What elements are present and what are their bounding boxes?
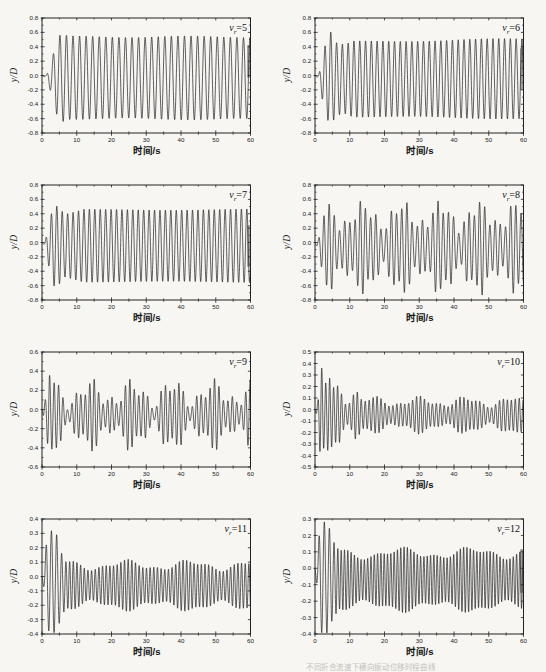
svg-text:-0.2: -0.2: [301, 429, 312, 436]
series-label: vr=12: [497, 523, 520, 537]
x-axis-label: 时间/s: [42, 310, 251, 324]
subplot-vr8: -0.8-0.6-0.4-0.20.00.20.40.60.8010203040…: [273, 167, 546, 334]
svg-text:0.4: 0.4: [303, 43, 312, 50]
svg-text:0.3: 0.3: [30, 529, 39, 536]
svg-text:0.1: 0.1: [303, 548, 312, 555]
svg-text:-0.4: -0.4: [28, 630, 39, 637]
svg-text:0.6: 0.6: [30, 348, 39, 355]
subplot-vr11: -0.4-0.3-0.2-0.10.00.10.20.30.4010203040…: [0, 501, 273, 669]
svg-text:-0.2: -0.2: [28, 601, 39, 608]
subplot-vr12: -0.4-0.3-0.2-0.10.00.10.20.3010203040506…: [273, 501, 546, 669]
series-label: vr=5: [229, 22, 247, 36]
svg-text:0.8: 0.8: [30, 181, 39, 188]
x-axis-label: 时间/s: [42, 143, 251, 157]
svg-text:0.4: 0.4: [30, 367, 39, 374]
svg-text:-0.4: -0.4: [28, 267, 39, 274]
svg-text:-0.8: -0.8: [301, 296, 312, 303]
svg-text:0.2: 0.2: [30, 57, 39, 64]
svg-text:0.0: 0.0: [30, 239, 39, 246]
svg-text:0.6: 0.6: [303, 28, 312, 35]
svg-text:-0.6: -0.6: [28, 463, 39, 470]
svg-text:0.6: 0.6: [30, 195, 39, 202]
svg-text:-0.2: -0.2: [28, 86, 39, 93]
svg-text:0.0: 0.0: [30, 573, 39, 580]
svg-text:0.0: 0.0: [30, 72, 39, 79]
svg-text:-0.1: -0.1: [301, 417, 312, 424]
svg-text:0.2: 0.2: [30, 544, 39, 551]
y-axis-label: y/D: [282, 569, 292, 584]
x-axis-label: 时间/s: [315, 644, 524, 658]
svg-text:0.4: 0.4: [30, 43, 39, 50]
y-axis-label: y/D: [282, 235, 292, 250]
svg-text:-0.1: -0.1: [301, 581, 312, 588]
svg-text:-0.8: -0.8: [28, 129, 39, 136]
series-label: vr=10: [497, 356, 520, 370]
svg-text:-0.2: -0.2: [28, 425, 39, 432]
svg-text:0.2: 0.2: [303, 532, 312, 539]
svg-text:0.8: 0.8: [303, 181, 312, 188]
svg-text:-0.4: -0.4: [301, 100, 312, 107]
svg-text:0.3: 0.3: [303, 371, 312, 378]
svg-text:-0.2: -0.2: [301, 86, 312, 93]
svg-text:-0.2: -0.2: [301, 597, 312, 604]
x-axis-label: 时间/s: [315, 477, 524, 491]
svg-text:-0.6: -0.6: [301, 282, 312, 289]
svg-text:0.2: 0.2: [30, 224, 39, 231]
svg-text:0.0: 0.0: [303, 406, 312, 413]
y-axis-label: y/D: [9, 68, 19, 83]
svg-text:-0.6: -0.6: [28, 115, 39, 122]
x-axis-label: 时间/s: [315, 143, 524, 157]
svg-text:0.4: 0.4: [30, 210, 39, 217]
svg-text:0.0: 0.0: [303, 564, 312, 571]
y-axis-label: y/D: [282, 68, 292, 83]
svg-text:-0.3: -0.3: [28, 616, 39, 623]
svg-text:-0.8: -0.8: [28, 296, 39, 303]
svg-text:0.5: 0.5: [303, 348, 312, 355]
x-axis-label: 时间/s: [42, 477, 251, 491]
x-axis-label: 时间/s: [315, 310, 524, 324]
subplot-vr10: -0.5-0.4-0.3-0.2-0.10.00.10.20.30.40.501…: [273, 334, 546, 501]
svg-text:0.8: 0.8: [30, 14, 39, 21]
svg-text:-0.4: -0.4: [301, 630, 312, 637]
y-axis-label: y/D: [9, 402, 19, 417]
series-label: vr=9: [229, 356, 247, 370]
series-label: vr=11: [225, 523, 247, 537]
subplot-vr9: -0.6-0.4-0.20.00.20.40.60102030405060 y/…: [0, 334, 273, 501]
svg-text:-0.4: -0.4: [301, 452, 312, 459]
svg-text:-0.4: -0.4: [28, 444, 39, 451]
svg-text:0.8: 0.8: [303, 14, 312, 21]
svg-text:0.4: 0.4: [30, 515, 39, 522]
series-label: vr=8: [502, 189, 520, 203]
svg-text:0.3: 0.3: [303, 515, 312, 522]
svg-text:0.0: 0.0: [303, 239, 312, 246]
subplot-vr6: -0.8-0.6-0.4-0.20.00.20.40.60.8010203040…: [273, 0, 546, 167]
svg-text:-0.1: -0.1: [28, 587, 39, 594]
svg-text:0.2: 0.2: [303, 224, 312, 231]
series-label: vr=7: [229, 189, 247, 203]
svg-text:-0.8: -0.8: [301, 129, 312, 136]
svg-text:-0.4: -0.4: [28, 100, 39, 107]
svg-text:0.2: 0.2: [303, 383, 312, 390]
svg-text:-0.6: -0.6: [301, 115, 312, 122]
x-axis-label: 时间/s: [42, 644, 251, 658]
svg-text:0.2: 0.2: [303, 57, 312, 64]
svg-text:0.1: 0.1: [303, 394, 312, 401]
series-label: vr=6: [502, 22, 520, 36]
svg-text:0.4: 0.4: [303, 210, 312, 217]
y-axis-label: y/D: [9, 569, 19, 584]
svg-text:0.2: 0.2: [30, 386, 39, 393]
subplot-vr5: -0.8-0.6-0.4-0.20.00.20.40.60.8010203040…: [0, 0, 273, 167]
svg-text:0.6: 0.6: [30, 28, 39, 35]
svg-text:0.1: 0.1: [30, 558, 39, 565]
svg-text:-0.3: -0.3: [301, 614, 312, 621]
svg-text:0.0: 0.0: [303, 72, 312, 79]
svg-text:-0.2: -0.2: [28, 253, 39, 260]
y-axis-label: y/D: [282, 402, 292, 417]
svg-text:0.0: 0.0: [30, 406, 39, 413]
svg-text:-0.3: -0.3: [301, 440, 312, 447]
y-axis-label: y/D: [9, 235, 19, 250]
svg-text:-0.6: -0.6: [28, 282, 39, 289]
svg-text:-0.4: -0.4: [301, 267, 312, 274]
svg-text:-0.2: -0.2: [301, 253, 312, 260]
